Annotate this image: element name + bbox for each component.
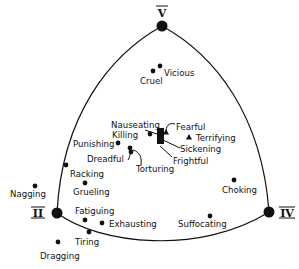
pointer-frightful (160, 146, 172, 157)
point-label-punishing: Punishing (73, 139, 115, 149)
pointer-fearful (166, 124, 175, 132)
point-label-sickening: Sickening (180, 144, 221, 154)
point-vicious-dot (158, 64, 163, 69)
point-choking-dot (232, 178, 237, 183)
cluster-square-marker (157, 128, 164, 144)
perceptual-space-diagram: V II IV ViciousCruelNauseatingKillingFea… (0, 0, 299, 269)
point-tiring-dot (87, 230, 92, 235)
point-terrifying-triangle (186, 134, 192, 140)
point-torturing-dot (129, 150, 134, 155)
vertex-dot (157, 21, 168, 32)
point-label-exhausting: Exhausting (109, 219, 157, 229)
point-fatiguing-dot (83, 218, 88, 223)
point-suffocating-dot (208, 214, 213, 219)
vertex-dot (264, 207, 275, 218)
vertex-dot (52, 208, 63, 219)
point-punishing-dot (116, 141, 121, 146)
point-label-nauseating: Nauseating (111, 120, 160, 130)
point-label-cruel: Cruel (140, 76, 163, 86)
point-label-torturing: Torturing (135, 164, 174, 174)
point-label-choking: Choking (222, 185, 257, 195)
point-cruel-dot (151, 69, 156, 74)
vertex-label: V (157, 7, 167, 20)
vertex-v: V (156, 6, 168, 32)
point-label-dreadful: Dreadful (87, 154, 124, 164)
point-label-racking: Racking (70, 169, 104, 179)
point-label-fatiguing: Fatiguing (75, 206, 114, 216)
point-label-terrifying: Terrifying (195, 133, 236, 143)
point-killing-dot (148, 132, 153, 137)
point-label-grueling: Grueling (73, 187, 110, 197)
point-dragging-dot (56, 240, 61, 245)
point-label-frightful: Frightful (173, 156, 208, 166)
point-label-vicious: Vicious (164, 68, 195, 78)
vertex-ii: II (31, 207, 63, 220)
pointer-sickening (163, 140, 180, 148)
point-label-suffocating: Suffocating (178, 219, 227, 229)
point-exhausting-dot (100, 221, 105, 226)
point-grueling-dot (83, 181, 88, 186)
vertex-iv: IV (264, 207, 296, 221)
pointer-torturing (133, 150, 141, 165)
point-label-dragging: Dragging (40, 251, 80, 261)
point-label-tiring: Tiring (74, 237, 99, 247)
point-dreadful-dot (128, 146, 133, 151)
point-label-killing: Killing (112, 130, 138, 140)
point-racking-dot (64, 163, 69, 168)
point-nagging-dot (33, 184, 38, 189)
point-label-fearful: Fearful (176, 122, 205, 132)
point-label-nagging: Nagging (10, 189, 46, 199)
